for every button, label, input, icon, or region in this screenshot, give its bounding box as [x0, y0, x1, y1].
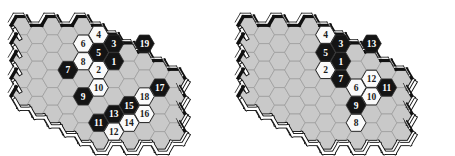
hex-board-figure: 12345678910111213141516171819 1234567891…: [0, 0, 455, 156]
stone-white-18[interactable]: 18: [135, 88, 155, 105]
stone-shape[interactable]: [135, 105, 155, 122]
stone-shape[interactable]: [73, 35, 93, 52]
stone-white-10[interactable]: 10: [89, 79, 109, 96]
stone-white-4[interactable]: 4: [316, 26, 336, 43]
stone-white-8[interactable]: 8: [73, 53, 93, 70]
stone-white-16[interactable]: 16: [135, 105, 155, 122]
stone-white-12[interactable]: 12: [362, 70, 382, 87]
stone-shape[interactable]: [89, 79, 109, 96]
stone-white-8[interactable]: 8: [346, 114, 366, 131]
right-board[interactable]: 12345678910111213: [227, 0, 455, 156]
stone-shape[interactable]: [346, 114, 366, 131]
stone-shape[interactable]: [316, 26, 336, 43]
stone-shape[interactable]: [135, 88, 155, 105]
stone-shape[interactable]: [362, 70, 382, 87]
stone-white-6[interactable]: 6: [73, 35, 93, 52]
stone-shape[interactable]: [73, 53, 93, 70]
left-board[interactable]: 12345678910111213141516171819: [0, 0, 228, 156]
left-board-canvas[interactable]: 12345678910111213141516171819: [0, 0, 228, 156]
right-board-canvas[interactable]: 12345678910111213: [227, 0, 455, 156]
